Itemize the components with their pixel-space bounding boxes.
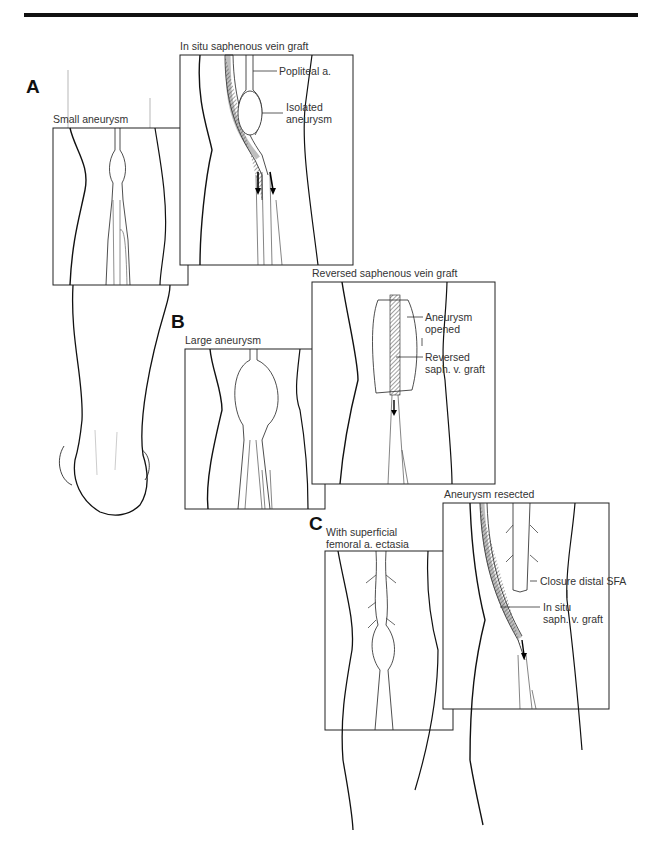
panel-a-right-drawing — [180, 55, 353, 265]
label-closure-distal-sfa: Closure distal SFA — [540, 575, 626, 587]
caption-aneurysm-resected: Aneurysm resected — [444, 488, 534, 500]
panel-letter-b: B — [171, 311, 185, 333]
caption-reversed-graft: Reversed saphenous vein graft — [312, 267, 457, 279]
panel-c-left-drawing — [325, 551, 453, 830]
label-saph-v-graft: saph. v. graft — [425, 363, 485, 375]
label-reversed: Reversed — [425, 351, 470, 363]
caption-small-aneurysm: Small aneurysm — [53, 113, 128, 125]
label-popliteal-artery: Popliteal a. — [279, 65, 331, 77]
caption-sfa-ectasia-line1: With superficial — [326, 526, 397, 538]
panel-a-left-drawing — [53, 128, 188, 285]
label-in-situ: In situ — [543, 601, 571, 613]
panel-b-left-drawing — [185, 349, 325, 509]
label-in-situ-saph-v-graft: saph. v. graft — [543, 613, 603, 625]
panel-c-right-drawing — [443, 503, 609, 825]
caption-sfa-ectasia-line2: femoral a. ectasia — [326, 538, 409, 550]
label-aneurysm: aneurysm — [286, 113, 332, 125]
panel-letter-c: C — [309, 513, 323, 535]
label-aneurysm-opened-1: Aneurysm — [425, 311, 472, 323]
panel-letter-a: A — [26, 76, 40, 98]
label-aneurysm-opened-2: opened — [425, 323, 460, 335]
caption-large-aneurysm: Large aneurysm — [185, 334, 261, 346]
caption-in-situ-graft: In situ saphenous vein graft — [180, 40, 308, 52]
label-isolated: Isolated — [286, 101, 323, 113]
illustration — [0, 0, 665, 856]
